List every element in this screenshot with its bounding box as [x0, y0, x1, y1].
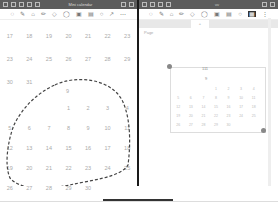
selected-tool-icon[interactable]: ▦	[248, 11, 256, 17]
text-icon[interactable]: ▤	[226, 11, 232, 17]
day-cell: 24	[236, 114, 247, 118]
pen-icon[interactable]: ✎	[159, 11, 164, 17]
week-row: 5 6 7 8 9 10 11	[172, 93, 260, 102]
day-cell: 8	[210, 96, 221, 100]
selection-label: 111	[202, 66, 208, 71]
week-row: 1 2 3 4	[172, 84, 260, 93]
image-icon[interactable]: ▣	[214, 11, 220, 17]
day-cell: 4	[248, 87, 259, 91]
redo-icon[interactable]	[270, 2, 275, 7]
day-cell: 7	[198, 96, 209, 100]
tab[interactable]	[243, 20, 260, 28]
week-row: 19 20 21 22 23 24 25	[172, 111, 260, 120]
week-row: 12 13 14 15 16 17 18	[172, 102, 260, 111]
list-icon[interactable]	[158, 2, 163, 7]
lasso-selection-outline[interactable]	[0, 0, 137, 186]
page-tabs: +	[139, 20, 278, 28]
eraser-icon[interactable]: ◇	[190, 11, 195, 17]
right-toolbar: ◌ ✎ ⌂ ✏ ◇ ◯ ▣ ▤ ○ ▦ ⋮	[139, 9, 278, 20]
undo-icon[interactable]	[262, 2, 267, 7]
day-cell: 30	[223, 123, 234, 127]
day-cell: 21	[198, 114, 209, 118]
week-row: 26 27 28 29 30	[172, 120, 260, 129]
day-cell: 3	[236, 87, 247, 91]
window-title: 〰	[215, 2, 219, 8]
day-cell: 23	[223, 114, 234, 118]
more-icon[interactable]: ⋮	[262, 11, 268, 17]
grid-icon[interactable]	[150, 2, 155, 7]
breadcrumb: Page	[139, 28, 278, 37]
layout-icon[interactable]	[166, 2, 171, 7]
pasted-calendar-grid[interactable]: 1 2 3 4 5 6 7 8 9 10 11 12 13 14 15 16 1…	[172, 84, 260, 129]
day-cell: 5	[173, 96, 184, 100]
left-window: Mini calendar ◌ ✎ ⌂ ✏ ◇ ◯ ▣ ▤ ○ ↗ ⋯ 17 1…	[0, 0, 138, 186]
day-cell: 29	[210, 123, 221, 127]
scrollbar[interactable]	[268, 18, 271, 186]
tab-active[interactable]: +	[191, 20, 208, 28]
day-cell: 19	[173, 114, 184, 118]
shapes-icon[interactable]: ◯	[201, 11, 208, 17]
day-cell: 2	[223, 87, 234, 91]
day-cell: 1	[210, 87, 221, 91]
day-cell: 28	[198, 123, 209, 127]
right-titlebar: 〰	[139, 0, 278, 9]
rotate-handle[interactable]	[167, 64, 172, 69]
pencil-icon[interactable]: ✏	[179, 11, 184, 17]
day-cell: 11	[248, 96, 259, 100]
tab[interactable]	[139, 20, 156, 28]
resize-handle[interactable]	[261, 128, 266, 133]
day-cell: 15	[210, 105, 221, 109]
day-cell: 18	[248, 105, 259, 109]
day-cell: 9	[223, 96, 234, 100]
tab[interactable]	[174, 20, 191, 28]
day-cell: 25	[248, 114, 259, 118]
day-cell: 26	[173, 123, 184, 127]
bottom-edge	[0, 201, 278, 202]
tab[interactable]	[226, 20, 243, 28]
day-cell: 20	[185, 114, 196, 118]
mini-month-header: 9	[205, 76, 207, 81]
highlighter-icon[interactable]: ⌂	[170, 11, 174, 17]
day-cell: 17	[236, 105, 247, 109]
sticker-icon[interactable]: ○	[238, 11, 242, 17]
day-cell: 12	[173, 105, 184, 109]
day-cell: 27	[185, 123, 196, 127]
tab[interactable]	[156, 20, 173, 28]
tab[interactable]	[209, 20, 226, 28]
day-cell: 10	[236, 96, 247, 100]
day-cell: 22	[210, 114, 221, 118]
day-cell: 14	[198, 105, 209, 109]
day-cell: 6	[185, 96, 196, 100]
lasso-icon[interactable]: ◌	[149, 11, 153, 17]
day-cell: 16	[223, 105, 234, 109]
sidebar-icon[interactable]	[142, 2, 147, 7]
day-cell: 13	[185, 105, 196, 109]
